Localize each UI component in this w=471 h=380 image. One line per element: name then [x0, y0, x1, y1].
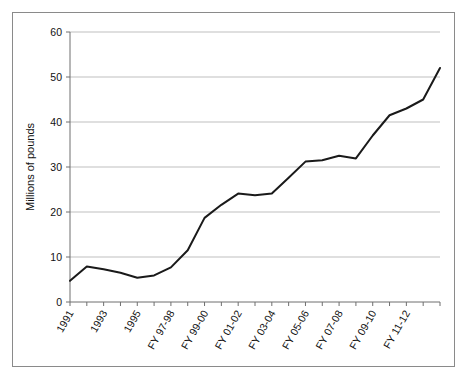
y-tick-label: 10 [50, 251, 62, 263]
y-tick-label: 20 [50, 206, 62, 218]
y-tick-label: 60 [50, 26, 62, 38]
line-chart: 0102030405060199119931995FY 97-98FY 99-0… [0, 0, 471, 380]
x-tick-label: FY 05-06 [279, 308, 311, 351]
x-tick-label: FY 99-00 [178, 308, 210, 351]
x-tick-label: 1991 [54, 308, 76, 334]
x-tick-label: 1995 [121, 308, 143, 334]
x-tick-label: FY 07-08 [313, 308, 345, 351]
x-tick-label: FY 03-04 [246, 308, 278, 351]
y-tick-label: 50 [50, 71, 62, 83]
gridlines: 0102030405060 [50, 26, 440, 308]
x-tick-label: FY 09-10 [347, 308, 379, 351]
x-tick-label: FY 97-98 [145, 308, 177, 351]
x-tick-labels: 199119931995FY 97-98FY 99-00FY 01-02FY 0… [54, 308, 413, 351]
x-tick-label: FY 11-12 [381, 308, 413, 351]
data-series-line [70, 68, 440, 281]
x-tick-label: 1993 [87, 308, 109, 334]
y-tick-label: 30 [50, 161, 62, 173]
y-tick-label: 0 [56, 296, 62, 308]
x-tick-label: FY 01-02 [212, 308, 244, 351]
y-axis-title: Millions of pounds [24, 122, 36, 211]
figure-canvas: 0102030405060199119931995FY 97-98FY 99-0… [0, 0, 471, 380]
y-tick-label: 40 [50, 116, 62, 128]
x-ticks [70, 302, 440, 306]
